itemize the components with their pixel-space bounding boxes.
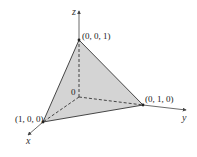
shaded-face <box>43 40 143 122</box>
vertex-label-x: (1, 0, 0) <box>15 114 44 124</box>
z-axis-label: z <box>71 6 76 17</box>
y-axis <box>143 105 186 110</box>
vertex-label-y: (0, 1, 0) <box>145 94 174 104</box>
vertex-dot-y <box>142 104 145 107</box>
vertex-dot-z <box>78 39 81 42</box>
tetrahedron-diagram: z y x 0 (0, 0, 1) (0, 1, 0) (1, 0, 0) <box>0 0 197 157</box>
origin-label: 0 <box>71 87 76 97</box>
vertex-label-z: (0, 0, 1) <box>82 31 111 41</box>
y-axis-label: y <box>181 112 187 123</box>
x-axis-label: x <box>25 135 31 146</box>
